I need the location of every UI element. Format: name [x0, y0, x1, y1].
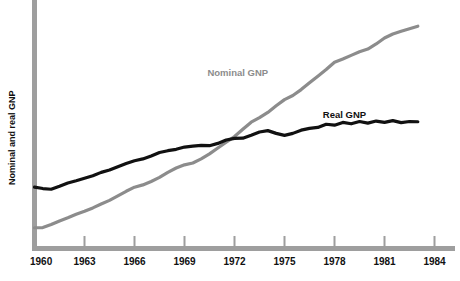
- x-axis-tick: [134, 236, 136, 247]
- x-axis-tick: [434, 236, 436, 247]
- chart-canvas: 196019631966196919721975197819811984 Nom…: [0, 0, 460, 281]
- x-axis-tick-label: 1960: [30, 256, 53, 267]
- x-axis-tick-label: 1966: [123, 256, 146, 267]
- x-axis-spine: [32, 246, 455, 251]
- x-axis-tick-label: 1969: [173, 256, 196, 267]
- x-axis-tick-label: 1984: [423, 256, 446, 267]
- x-axis-tick: [284, 236, 286, 247]
- nominal-gnp-label: Nominal GNP: [207, 67, 268, 78]
- x-axis-tick: [184, 236, 186, 247]
- gnp-line-chart: 196019631966196919721975197819811984 Nom…: [0, 0, 460, 281]
- x-axis-tick-label: 1963: [73, 256, 96, 267]
- x-axis-tick-label: 1972: [223, 256, 246, 267]
- x-axis-tick: [334, 236, 336, 247]
- x-axis-tick-label: 1975: [273, 256, 296, 267]
- x-axis-tick: [84, 236, 86, 247]
- x-axis-tick-labels: 196019631966196919721975197819811984: [30, 256, 446, 267]
- x-axis-tick-label: 1981: [373, 256, 396, 267]
- real-gnp-label: Real GNP: [323, 109, 367, 120]
- y-axis-spine: [32, 0, 37, 251]
- x-axis-tick: [234, 236, 236, 247]
- y-axis-title: Nominal and real GNP: [7, 90, 17, 185]
- x-axis-tick: [384, 236, 386, 247]
- x-axis-tick-label: 1978: [323, 256, 346, 267]
